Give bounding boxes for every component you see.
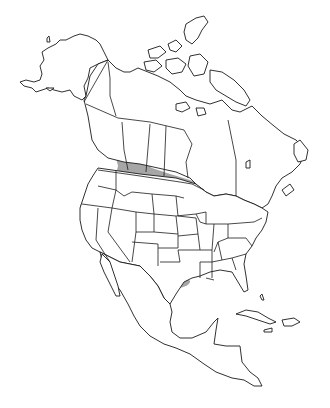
hudson-island <box>246 160 250 168</box>
newfoundland <box>294 140 308 162</box>
alaska-island <box>47 36 50 42</box>
arctic-island-5 <box>188 54 208 76</box>
cuba <box>236 310 276 324</box>
arctic-island-baffin <box>210 70 250 106</box>
arctic-island-ellesmere <box>184 16 208 44</box>
arctic-island-7 <box>196 108 206 116</box>
arctic-island-1 <box>148 46 166 58</box>
arctic-island-4 <box>166 58 186 74</box>
bahamas <box>260 294 264 300</box>
hispaniola <box>282 318 300 326</box>
arctic-island-3 <box>144 60 162 72</box>
range-map <box>0 0 330 408</box>
landmasses <box>20 16 308 386</box>
arctic-island-2 <box>168 40 182 52</box>
nova-scotia <box>282 184 294 196</box>
jamaica <box>264 328 272 332</box>
